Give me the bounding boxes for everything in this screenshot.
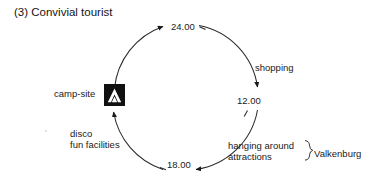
time-marker-24: 24.00 xyxy=(171,21,195,32)
camp-site-icon xyxy=(104,84,125,106)
activity-label-hanging-line1: hanging around xyxy=(228,140,294,151)
activity-label-disco-fun-facilities: discofun facilities xyxy=(70,128,120,150)
scan-artifact-speck xyxy=(45,130,47,132)
activity-label-shopping: shopping xyxy=(255,62,294,73)
time-marker-12: 12.00 xyxy=(237,95,261,106)
valkenburg-label: Valkenburg xyxy=(314,148,361,159)
time-marker-18: 18.00 xyxy=(167,159,191,170)
activity-label-disco-line2: fun facilities xyxy=(70,139,120,150)
figure-convivial-tourist: (3) Convivial tourist camp-site 24.00 12… xyxy=(0,0,373,184)
activity-label-hanging-around-attractions: hanging aroundattractions xyxy=(228,140,294,162)
valkenburg-brace-icon xyxy=(305,141,313,161)
activity-label-hanging-line2: attractions xyxy=(228,151,272,162)
arc-tick-right-low xyxy=(244,111,247,117)
arc-18-to-campsite xyxy=(114,112,163,170)
arc-campsite-to-24 xyxy=(115,27,164,89)
camp-site-label: camp-site xyxy=(54,88,95,99)
arc-24-to-12 xyxy=(199,26,258,88)
activity-label-disco-line1: disco xyxy=(70,128,92,139)
